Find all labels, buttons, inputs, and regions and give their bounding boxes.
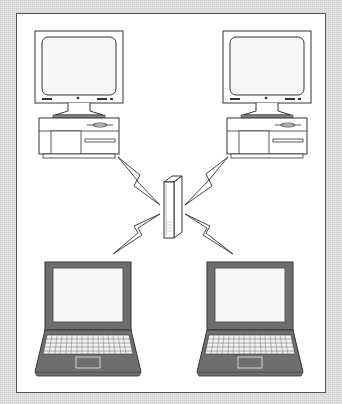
lightning-bolt-bottom-left-icon bbox=[113, 214, 160, 254]
lightning-bolt-top-left-icon bbox=[118, 157, 160, 205]
laptop-left-icon bbox=[35, 262, 141, 376]
network-diagram bbox=[0, 0, 342, 404]
laptop-right-icon bbox=[197, 262, 303, 376]
lightning-bolt-bottom-right-icon bbox=[185, 214, 233, 254]
desktop-computer-right-icon bbox=[223, 31, 311, 158]
wireless-hub-icon bbox=[164, 176, 182, 238]
lightning-bolt-top-right-icon bbox=[185, 157, 228, 205]
desktop-computer-left-icon bbox=[35, 31, 123, 158]
